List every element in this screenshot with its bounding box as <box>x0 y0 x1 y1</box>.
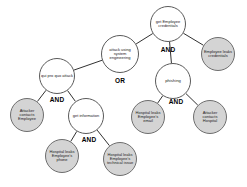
node-root[interactable]: attack using system engineering <box>101 35 139 73</box>
gate-phishing: AND <box>169 98 184 105</box>
node-label: get Employee credentials <box>151 20 185 28</box>
node-label: get information <box>72 114 100 118</box>
node-label: Attacker contacts Employee <box>11 109 43 121</box>
node-label: attack using system engineering <box>102 48 138 60</box>
edge-quid-get-information <box>68 91 76 102</box>
node-hospital_leaks_employees_technical_issue[interactable]: Hospital leaks Employee's technical issu… <box>103 142 137 176</box>
edge-phishing-email <box>158 96 163 103</box>
edge-information-phone <box>71 131 77 141</box>
node-hospital_leaks_employees_email[interactable]: Hospital leaks Employee's email <box>131 100 165 134</box>
gate-root: OR <box>115 77 125 84</box>
node-label: qui pro quo attack <box>40 74 74 78</box>
node-quid_pro_quo[interactable]: qui pro quo attack <box>39 58 75 94</box>
edge-quid-contacts-employee <box>37 90 46 101</box>
node-label: Hospital leaks Employee's email <box>132 111 164 123</box>
edge-information-technical <box>97 130 109 146</box>
node-get_employee_credentials[interactable]: get Employee credentials <box>150 6 186 42</box>
node-label: Attacker contacts Hospital <box>194 111 226 123</box>
gate-quid: AND <box>50 96 65 103</box>
gate-credentials: AND <box>161 46 176 53</box>
node-attacker_contacts_employee[interactable]: Attacker contacts Employee <box>10 98 44 132</box>
edge-root-quid <box>74 60 102 70</box>
node-get_information[interactable]: get information <box>68 98 104 134</box>
gate-information: AND <box>82 136 97 143</box>
node-employee_leaks_credentials[interactable]: Employee leaks credentials <box>201 37 235 71</box>
node-label: Employee leaks credentials <box>202 50 234 58</box>
node-attacker_contacts_hospital[interactable]: Attacker contacts Hospital <box>193 100 227 134</box>
node-label: Hospital leaks Employee's technical issu… <box>104 153 136 165</box>
attack-tree-diagram: attack using system engineeringqui pro q… <box>0 0 247 187</box>
edge-credentials-leaks <box>183 33 203 45</box>
node-label: phishing <box>164 79 182 83</box>
node-phishing[interactable]: phishing <box>155 63 191 99</box>
edge-root-credentials <box>136 34 153 44</box>
node-hospital_leaks_employees_phone[interactable]: Hospital leaks Employee's phone <box>45 139 79 173</box>
edge-phishing-contacts-hospital <box>186 94 198 106</box>
node-label: Hospital leaks Employee's phone <box>46 150 78 162</box>
